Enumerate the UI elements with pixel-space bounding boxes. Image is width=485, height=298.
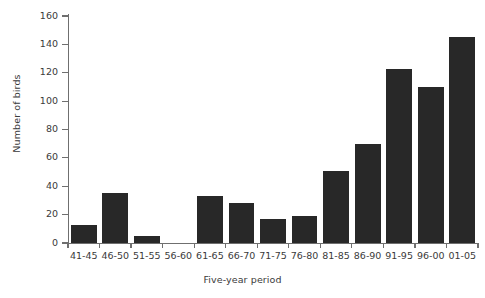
x-tick-label: 66-70	[226, 250, 258, 261]
y-tick-label: 120	[18, 67, 58, 77]
x-tick-label: 61-65	[194, 250, 226, 261]
x-tick	[477, 243, 478, 248]
y-tick-label: 100	[18, 96, 58, 106]
x-tick	[130, 243, 131, 248]
bar	[229, 203, 255, 243]
x-tick	[67, 243, 68, 248]
x-tick	[99, 243, 100, 248]
bar-chart: Number of birds 020406080100120140160 41…	[0, 0, 485, 298]
bar	[449, 37, 475, 243]
x-tick	[225, 243, 226, 248]
y-tick-label: 160	[18, 11, 58, 21]
x-tick	[162, 243, 163, 248]
y-tick-label: 40	[18, 181, 58, 191]
x-tick-label: 51-55	[131, 250, 163, 261]
x-tick-label: 46-50	[100, 250, 132, 261]
x-tick-label: 41-45	[68, 250, 100, 261]
x-tick-label: 71-75	[257, 250, 289, 261]
y-tick-label: 140	[18, 39, 58, 49]
x-tick-label: 81-85	[320, 250, 352, 261]
x-tick-label: 91-95	[383, 250, 415, 261]
x-tick-label: 01-05	[446, 250, 478, 261]
bar	[418, 87, 444, 243]
y-tick-label: 20	[18, 209, 58, 219]
bar	[197, 196, 223, 243]
x-tick	[351, 243, 352, 248]
x-tick-label: 76-80	[289, 250, 321, 261]
x-tick	[288, 243, 289, 248]
x-tick	[320, 243, 321, 248]
x-tick-label: 56-60	[163, 250, 195, 261]
y-tick-label: 80	[18, 124, 58, 134]
bar	[260, 219, 286, 243]
y-tick-label: 0	[18, 238, 58, 248]
bar	[292, 216, 318, 243]
bar	[323, 171, 349, 243]
x-tick-label: 86-90	[352, 250, 384, 261]
x-tick	[257, 243, 258, 248]
x-axis-line	[68, 243, 479, 244]
bar	[134, 236, 160, 243]
x-tick	[194, 243, 195, 248]
bar	[386, 69, 412, 244]
x-tick	[446, 243, 447, 248]
x-tick	[383, 243, 384, 248]
bar-series	[68, 16, 478, 243]
bar	[71, 225, 97, 243]
x-axis-label: Five-year period	[0, 274, 485, 285]
x-tick-label: 96-00	[415, 250, 447, 261]
x-tick	[414, 243, 415, 248]
bar	[102, 193, 128, 243]
y-tick-label: 60	[18, 152, 58, 162]
bar	[355, 144, 381, 243]
